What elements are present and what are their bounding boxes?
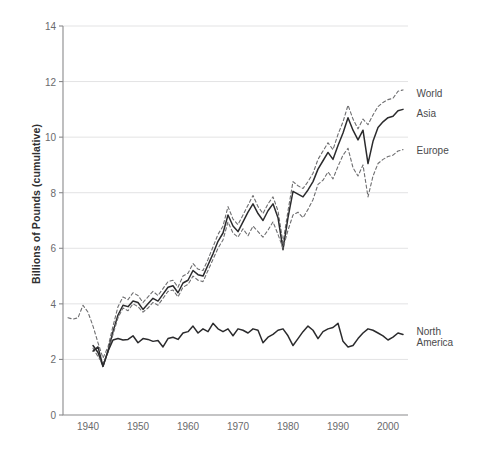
axis-lines — [63, 26, 408, 415]
series-label-world: World — [417, 88, 443, 100]
x-axis-tick-labels: 1940195019601970198019902000 — [0, 421, 485, 441]
series-line-asia — [93, 109, 403, 366]
plot-area — [0, 0, 485, 460]
series-line-europe — [93, 148, 403, 363]
x-tick-label: 2000 — [377, 421, 399, 432]
x-tick-label: 1980 — [277, 421, 299, 432]
x-tick-label: 1960 — [177, 421, 199, 432]
series-label-north-america: North America — [417, 326, 454, 349]
series-label-asia: Asia — [417, 108, 436, 120]
chart-root: Billions of Pounds (cumulative) 02468101… — [0, 0, 485, 460]
x-tick-label: 1970 — [227, 421, 249, 432]
series-label-europe: Europe — [417, 145, 449, 157]
x-tick-label: 1940 — [77, 421, 99, 432]
x-tick-label: 1950 — [127, 421, 149, 432]
x-tick-label: 1990 — [327, 421, 349, 432]
